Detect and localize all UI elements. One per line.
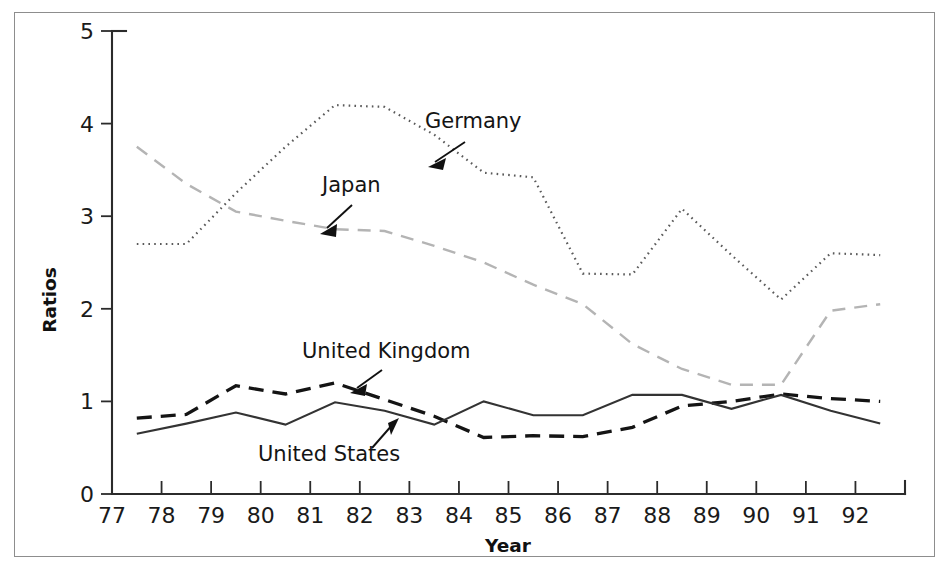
x-tick-label-84: 84 [445,503,473,528]
x-tick-label-87: 87 [594,503,622,528]
germany-arrow [428,142,465,170]
x-tick-label-77: 77 [98,503,126,528]
y-axis-title: Ratios [39,267,60,333]
x-tick-label-79: 79 [197,503,225,528]
x-tick-label-86: 86 [544,503,572,528]
x-tick-label-83: 83 [395,503,423,528]
data-series-layer [137,105,880,437]
x-tick-label-90: 90 [742,503,770,528]
series-line-germany [137,105,880,299]
series-line-united-states [137,395,880,434]
x-tick-label-92: 92 [841,503,869,528]
series-line-japan [137,147,880,385]
japan-arrow [320,205,352,237]
x-axis-title: Year [484,535,532,556]
series-annotation-united-states: United States [258,442,400,466]
y-tick-label-2: 2 [80,297,94,322]
x-tick-label-91: 91 [792,503,820,528]
chart-figure-root: 01234577787980818283848586878889909192 R… [0,0,949,582]
y-tick-label-5: 5 [80,19,94,44]
series-annotation-japan: Japan [320,173,381,197]
x-tick-label-82: 82 [346,503,374,528]
y-tick-label-0: 0 [80,482,94,507]
x-tick-label-85: 85 [495,503,523,528]
x-tick-label-80: 80 [247,503,275,528]
x-tick-label-81: 81 [296,503,324,528]
series-annotation-united-kingdom: United Kingdom [302,339,471,363]
x-tick-label-88: 88 [643,503,671,528]
series-annotation-germany: Germany [425,109,522,133]
series-line-united-kingdom [137,383,880,438]
y-tick-label-4: 4 [80,112,94,137]
y-tick-label-3: 3 [80,204,94,229]
x-tick-label-89: 89 [693,503,721,528]
axis-ticks-layer [101,31,855,494]
line-chart-plot: 01234577787980818283848586878889909192 R… [0,0,949,582]
x-tick-label-78: 78 [148,503,176,528]
y-tick-label-1: 1 [80,389,94,414]
